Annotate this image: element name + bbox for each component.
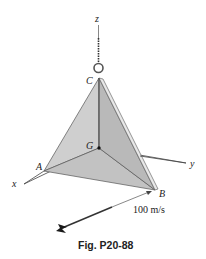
figure-caption: Fig. P20-88 — [78, 239, 134, 251]
label-a: A — [35, 161, 43, 172]
label-g: G — [86, 140, 93, 151]
label-b: B — [159, 188, 165, 199]
arrow-fletching-icon — [56, 224, 67, 233]
arrow-shaft — [62, 207, 112, 228]
center-of-mass-point — [97, 146, 100, 149]
label-x: x — [11, 178, 17, 189]
ring-icon — [94, 64, 103, 73]
y-axis-front — [140, 156, 186, 163]
velocity-label: 100 m/s — [133, 204, 165, 215]
label-z: z — [94, 13, 99, 24]
x-axis-front — [24, 171, 44, 184]
label-c: C — [86, 75, 93, 86]
figure-canvas: z C G A x y B 100 m/s Fig. P20-88 — [0, 0, 206, 259]
label-y: y — [189, 158, 195, 169]
